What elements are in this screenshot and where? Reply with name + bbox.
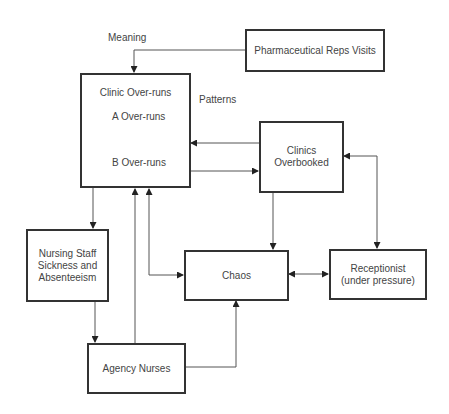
loop-label-a: A Over-runs — [112, 111, 165, 123]
edge-overruns-chaos — [149, 189, 183, 275]
patterns-label: Patterns — [199, 94, 236, 105]
node-clinic-overruns[interactable]: Clinic Over-runs A Over-runs B Over-runs — [80, 73, 191, 188]
node-pharmaceutical-reps-visits[interactable]: Pharmaceutical Reps Visits — [245, 29, 385, 72]
edge-pharma-to-overruns — [134, 50, 245, 72]
edge-overbooked-receptionist — [344, 156, 377, 248]
node-nursing-staff-sickness[interactable]: Nursing Staff Sickness and Absenteeism — [26, 229, 109, 302]
node-receptionist[interactable]: Receptionist (under pressure) — [329, 249, 427, 300]
loop-label-b: B Over-runs — [112, 157, 166, 169]
node-chaos[interactable]: Chaos — [184, 250, 289, 301]
node-clinics-overbooked[interactable]: Clinics Overbooked — [259, 121, 344, 193]
edge-agency-to-chaos — [186, 301, 236, 367]
clinic-overruns-title: Clinic Over-runs — [82, 87, 189, 99]
node-agency-nurses[interactable]: Agency Nurses — [87, 343, 186, 394]
meaning-label: Meaning — [108, 32, 146, 43]
